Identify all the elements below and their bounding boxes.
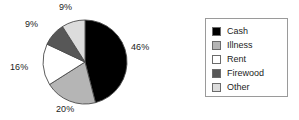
legend-item-illness[interactable]: Illness (212, 38, 287, 52)
pie-plot-area: 46%20%16%9%9% (0, 0, 185, 120)
legend-item-label: Other (227, 82, 250, 92)
legend-item-rent[interactable]: Rent (212, 52, 287, 66)
legend-swatch-icon (212, 27, 221, 36)
slice-value-label: 16% (10, 62, 28, 72)
legend-item-label: Firewood (227, 68, 264, 78)
slice-value-label: 20% (56, 104, 74, 114)
legend-swatch-icon (212, 69, 221, 78)
legend-swatch-icon (212, 83, 221, 92)
legend-item-label: Cash (227, 26, 248, 36)
legend-item-firewood[interactable]: Firewood (212, 66, 287, 80)
pie-chart-figure: 46%20%16%9%9% CashIllnessRentFirewoodOth… (0, 0, 299, 120)
legend-item-label: Illness (227, 40, 253, 50)
slice-value-label: 9% (59, 2, 72, 12)
legend-item-cash[interactable]: Cash (212, 24, 287, 38)
slice-value-label: 46% (131, 42, 149, 52)
pie-svg (0, 0, 185, 120)
legend-item-other[interactable]: Other (212, 80, 287, 94)
legend-swatch-icon (212, 41, 221, 50)
slice-value-label: 9% (25, 19, 38, 29)
chart-legend: CashIllnessRentFirewoodOther (205, 18, 288, 97)
legend-swatch-icon (212, 55, 221, 64)
legend-item-label: Rent (227, 54, 246, 64)
